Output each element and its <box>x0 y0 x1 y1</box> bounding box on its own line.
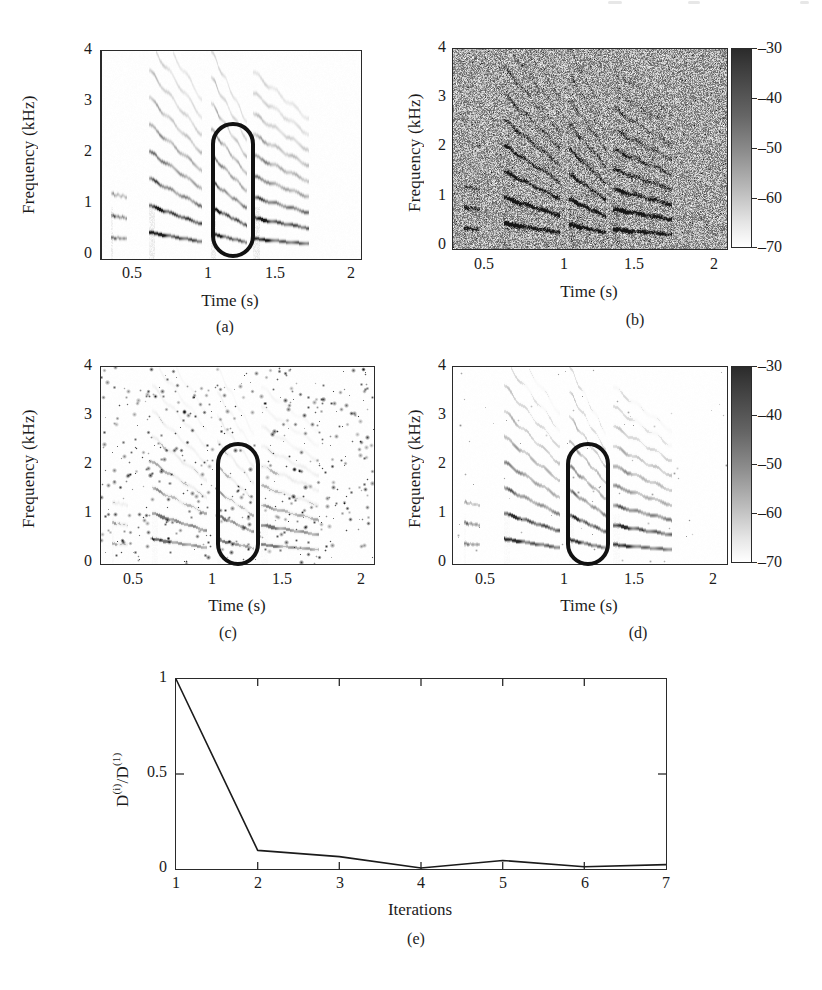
panel-d-xtick: 0.5 <box>465 570 505 588</box>
panel-a-xtick: 1.5 <box>255 264 295 282</box>
colorbar-tick <box>752 562 757 563</box>
panel-a-ytick: 0 <box>62 244 92 262</box>
panel-d-ytick: 1 <box>416 503 446 521</box>
colorbar-tick <box>752 98 757 99</box>
panel-b-xlabel: Time (s) <box>519 282 659 302</box>
panel-a-ytick: 4 <box>62 40 92 58</box>
panel-b-letter: (b) <box>605 311 665 329</box>
panel-b-xtick: 0.5 <box>464 255 504 273</box>
panel-a-highlight-oval <box>211 122 255 258</box>
panel-d-xtick: 2 <box>693 570 733 588</box>
panel-a-xlabel: Time (s) <box>160 291 300 311</box>
panel-b-colorbar <box>731 48 752 248</box>
panel-c-xtick: 1.5 <box>262 570 302 588</box>
colorbar-tick <box>752 148 757 149</box>
ylabel-sup-i: (i) <box>110 784 122 795</box>
panel-b-xtick: 1.5 <box>614 255 654 273</box>
colorbar-tick <box>752 366 757 367</box>
panel-e-letter: (e) <box>386 930 446 948</box>
panel-b-colorbar-tick-label: –50 <box>758 139 806 157</box>
panel-d-ytick: 3 <box>416 405 446 423</box>
panel-b-ytick: 4 <box>416 38 446 56</box>
header-artifact <box>688 1 700 4</box>
panel-e-xtick: 6 <box>565 874 605 892</box>
panel-d-colorbar-tick-label: –50 <box>758 455 806 473</box>
panel-c-highlight-oval <box>216 442 260 566</box>
panel-d-xtick: 1.5 <box>614 570 654 588</box>
panel-e-plot-area <box>175 678 667 870</box>
panel-e-ticks <box>176 679 666 869</box>
panel-b-ytick: 0 <box>416 235 446 253</box>
panel-d-highlight-oval <box>566 442 610 566</box>
panel-d-ytick: 0 <box>416 552 446 570</box>
colorbar-tick <box>752 247 757 248</box>
panel-a-xtick: 2 <box>331 264 371 282</box>
panel-c-ytick: 2 <box>62 454 92 472</box>
panel-d-colorbar-tick-label: –40 <box>758 406 806 424</box>
colorbar-tick <box>752 198 757 199</box>
panel-c-ytick: 3 <box>62 405 92 423</box>
panel-a-ytick: 3 <box>62 91 92 109</box>
panel-e-xtick: 1 <box>156 874 196 892</box>
panel-e-ytick: 0.5 <box>127 763 167 781</box>
panel-b-colorbar-tick-label: –30 <box>758 39 806 57</box>
panel-c-xtick: 2 <box>341 570 381 588</box>
panel-b-ytick: 1 <box>416 186 446 204</box>
panel-b-ytick: 3 <box>416 87 446 105</box>
panel-e-xlabel: Iterations <box>350 900 490 920</box>
panel-b-colorbar-tick-label: –70 <box>758 238 806 256</box>
panel-c-letter: (c) <box>198 624 258 642</box>
colorbar-tick <box>752 48 757 49</box>
panel-d-ytick: 2 <box>416 454 446 472</box>
panel-b-spectrogram <box>453 49 727 249</box>
panel-b-xtick: 2 <box>694 255 734 273</box>
panel-b-axes <box>452 48 728 250</box>
panel-e-axes <box>175 678 667 870</box>
colorbar-tick <box>752 464 757 465</box>
panel-d-xlabel: Time (s) <box>519 596 659 616</box>
panel-e-xtick: 3 <box>320 874 360 892</box>
panel-d-colorbar-tick-label: –30 <box>758 357 806 375</box>
panel-d-letter: (d) <box>608 624 668 642</box>
panel-e-ytick: 1 <box>135 668 167 686</box>
panel-e-xtick: 4 <box>401 874 441 892</box>
panel-e-xtick: 7 <box>646 874 686 892</box>
panel-c-xlabel: Time (s) <box>167 596 307 616</box>
ylabel-sup-1: (1) <box>110 753 122 766</box>
panel-c-xtick: 0.5 <box>113 570 153 588</box>
panel-c-ytick: 4 <box>62 356 92 374</box>
panel-d-xtick: 1 <box>544 570 584 588</box>
colorbar-tick <box>752 513 757 514</box>
panel-b-xtick: 1 <box>544 255 584 273</box>
panel-e-xtick: 2 <box>238 874 278 892</box>
panel-b-colorbar-tick-label: –40 <box>758 89 806 107</box>
panel-c-ylabel: Frequency (kHz) <box>18 374 40 564</box>
header-artifact <box>608 1 622 4</box>
panel-c-xtick: 1 <box>192 570 232 588</box>
panel-a-xtick: 0.5 <box>112 264 152 282</box>
panel-a-ytick: 2 <box>62 142 92 160</box>
panel-e-xtick: 5 <box>483 874 523 892</box>
panel-a-xtick: 1 <box>188 264 228 282</box>
panel-a-letter: (a) <box>195 318 255 336</box>
figure-root: Frequency (kHz) 4 3 2 1 0 0.5 1 1.5 2 Ti… <box>0 0 822 990</box>
panel-b-ytick: 2 <box>416 136 446 154</box>
panel-e-data-line <box>176 679 666 868</box>
panel-d-colorbar-tick-label: –70 <box>758 553 806 571</box>
colorbar-tick <box>752 415 757 416</box>
panel-d-ytick: 4 <box>416 356 446 374</box>
ylabel-d1: D <box>113 795 132 807</box>
panel-e-ylabel: D(i)/D(1) <box>104 735 128 825</box>
panel-a-ylabel: Frequency (kHz) <box>18 60 40 250</box>
panel-c-ytick: 0 <box>62 552 92 570</box>
panel-d-colorbar-tick-label: –60 <box>758 504 806 522</box>
panel-d-colorbar <box>731 366 752 563</box>
panel-c-ytick: 1 <box>62 503 92 521</box>
panel-a-ytick: 1 <box>62 193 92 211</box>
panel-b-colorbar-tick-label: –60 <box>758 189 806 207</box>
header-artifact <box>800 1 809 4</box>
